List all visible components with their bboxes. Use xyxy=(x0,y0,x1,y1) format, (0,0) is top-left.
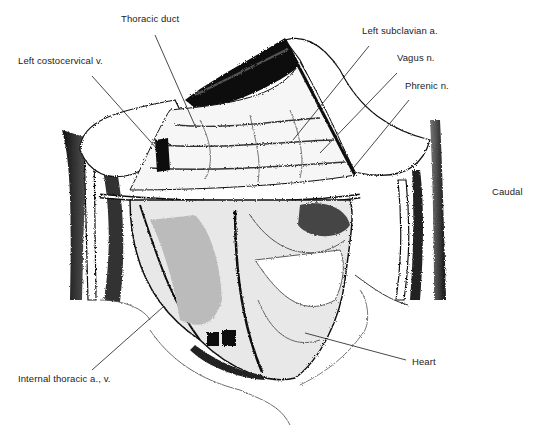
orientation-label-caudal: Caudal xyxy=(492,186,523,197)
label-heart: Heart xyxy=(412,356,436,367)
label-thoracic-duct: Thoracic duct xyxy=(121,13,179,24)
label-internal-thoracic-a-v: Internal thoracic a., v. xyxy=(18,373,111,384)
label-phrenic-n: Phrenic n. xyxy=(405,80,449,91)
label-vagus-n: Vagus n. xyxy=(397,52,435,63)
leader-internal-thoracic xyxy=(92,307,163,370)
drawing xyxy=(62,38,446,425)
label-left-subclavian-a: Left subclavian a. xyxy=(362,25,438,36)
label-left-costocervical-v: Left costocervical v. xyxy=(18,55,103,66)
